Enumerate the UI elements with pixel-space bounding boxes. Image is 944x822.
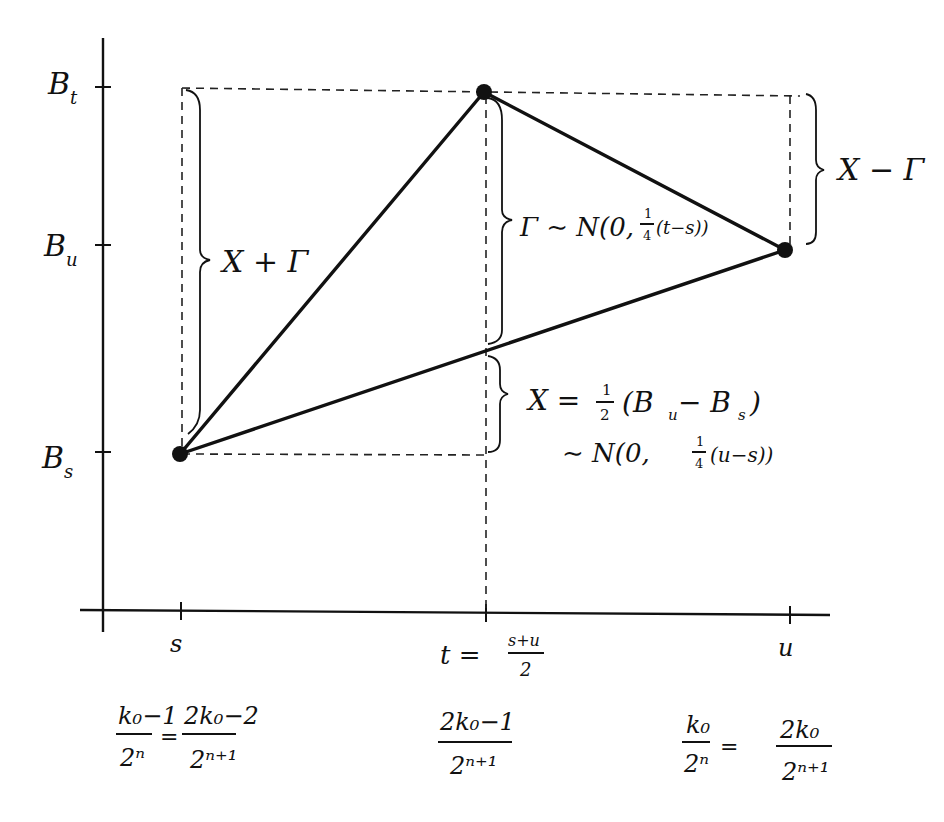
point-u <box>777 242 793 258</box>
svg-text:B: B <box>43 228 66 263</box>
x-label-u: u <box>778 634 793 662</box>
svg-text:∼ N(0,: ∼ N(0, <box>562 438 650 468</box>
svg-text:(t−s)): (t−s)) <box>656 217 709 238</box>
svg-text:=: = <box>160 724 178 749</box>
x-label-t: t = s+u 2 <box>440 631 544 680</box>
svg-text:B: B <box>47 66 70 101</box>
svg-text:): ) <box>749 386 761 419</box>
guide-bottom <box>182 454 488 455</box>
brownian-bridge-diagram: B t B u B s X + Γ Γ ∼ N(0, 1 4 (t−s)) X … <box>0 0 944 822</box>
svg-text:2k₀−1: 2k₀−1 <box>439 708 515 736</box>
svg-text:k₀: k₀ <box>686 711 711 739</box>
x-label-s: s <box>170 630 182 658</box>
svg-text:s+u: s+u <box>508 631 540 650</box>
y-label-bt: B t <box>47 66 78 108</box>
brace-x-plus-gamma <box>186 90 210 434</box>
svg-text:2ⁿ⁺¹: 2ⁿ⁺¹ <box>449 752 497 780</box>
point-s <box>172 446 188 462</box>
svg-text:1: 1 <box>696 434 704 449</box>
svg-text:(u−s)): (u−s)) <box>710 443 773 467</box>
dyadic-middle: 2k₀−1 2ⁿ⁺¹ <box>438 708 515 780</box>
label-x-definition: X = 1 2 (B u − B s ) <box>526 381 761 424</box>
label-x-plus-gamma: X + Γ <box>220 244 310 279</box>
svg-text:2ⁿ: 2ⁿ <box>119 744 145 772</box>
svg-text:1: 1 <box>644 206 652 221</box>
svg-text:B: B <box>41 440 64 475</box>
brace-gamma <box>488 98 512 344</box>
svg-text:t =: t = <box>440 640 481 670</box>
segment-s-to-u <box>180 250 785 454</box>
svg-text:s: s <box>64 461 73 482</box>
svg-text:=: = <box>720 734 738 759</box>
y-label-bs: B s <box>41 440 73 482</box>
svg-text:4: 4 <box>695 456 703 471</box>
label-x-minus-gamma: X − Γ <box>836 152 926 187</box>
y-label-bu: B u <box>43 228 78 270</box>
brace-x <box>488 356 508 452</box>
dyadic-right: k₀ 2ⁿ = 2k₀ 2ⁿ⁺¹ <box>682 711 832 786</box>
svg-text:2: 2 <box>519 659 531 680</box>
dyadic-left: k₀−1 2ⁿ = 2k₀−2 2ⁿ⁺¹ <box>116 702 259 774</box>
svg-text:2: 2 <box>600 406 610 424</box>
label-gamma-distribution: Γ ∼ N(0, 1 4 (t−s)) <box>519 206 709 243</box>
x-axis <box>80 610 830 615</box>
svg-text:1: 1 <box>602 381 612 399</box>
svg-text:Γ ∼ N(0,: Γ ∼ N(0, <box>519 212 634 242</box>
svg-text:s: s <box>738 406 746 424</box>
svg-text:2ⁿ: 2ⁿ <box>683 750 709 778</box>
brace-x-minus-gamma <box>806 94 824 244</box>
svg-text:2k₀−2: 2k₀−2 <box>183 702 259 730</box>
svg-text:− B: − B <box>678 386 731 419</box>
svg-text:2ⁿ⁺¹: 2ⁿ⁺¹ <box>189 746 237 774</box>
svg-text:2ⁿ⁺¹: 2ⁿ⁺¹ <box>781 758 829 786</box>
svg-text:X =: X = <box>526 384 580 417</box>
svg-text:4: 4 <box>643 228 651 243</box>
svg-text:u: u <box>66 249 78 270</box>
svg-text:u: u <box>668 406 678 424</box>
label-x-distribution: ∼ N(0, 1 4 (u−s)) <box>562 434 773 471</box>
svg-text:t: t <box>70 87 78 108</box>
svg-text:(B: (B <box>622 386 654 419</box>
svg-text:2k₀: 2k₀ <box>779 716 820 744</box>
